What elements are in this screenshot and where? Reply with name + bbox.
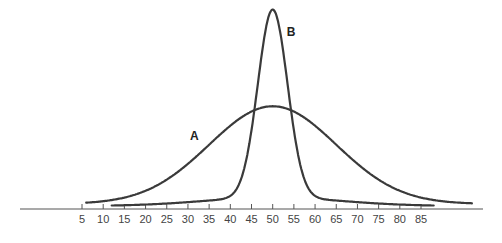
x-tick-label: 30 [182, 213, 194, 225]
x-tick-label: 75 [373, 213, 385, 225]
x-tick-label: 35 [203, 213, 215, 225]
curve-b-label: B [287, 25, 296, 39]
x-tick-label: 55 [288, 213, 300, 225]
x-axis-tick-labels: 510152025303540455055606570758085 [79, 213, 427, 225]
x-tick-label: 60 [309, 213, 321, 225]
x-tick-label: 25 [161, 213, 173, 225]
x-tick-label: 50 [267, 213, 279, 225]
x-tick-label: 40 [224, 213, 236, 225]
x-tick-label: 45 [245, 213, 257, 225]
x-tick-label: 5 [79, 213, 85, 225]
curve-a [86, 106, 472, 203]
curve-b [112, 10, 434, 206]
x-tick-label: 80 [394, 213, 406, 225]
chart: 510152025303540455055606570758085 A B [0, 0, 502, 243]
x-tick-label: 65 [330, 213, 342, 225]
x-tick-label: 85 [415, 213, 427, 225]
x-tick-label: 20 [139, 213, 151, 225]
curve-a-label: A [190, 129, 199, 143]
x-tick-label: 70 [351, 213, 363, 225]
x-tick-label: 15 [118, 213, 130, 225]
x-tick-label: 10 [97, 213, 109, 225]
